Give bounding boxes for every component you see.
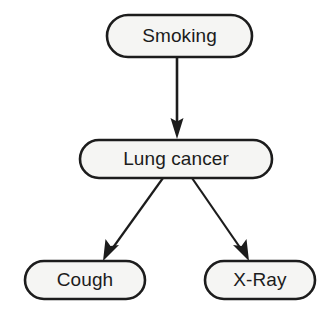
edge-line bbox=[192, 178, 241, 249]
diagram-canvas: Smoking Lung cancer Cough X-Ray bbox=[0, 0, 329, 323]
node-shape-cough[interactable] bbox=[25, 261, 145, 299]
edge-smoking-to-lung-cancer bbox=[171, 57, 184, 139]
node-shape-group bbox=[25, 15, 315, 299]
edge-line bbox=[112, 178, 163, 249]
graph-svg bbox=[0, 0, 329, 323]
node-shape-xray[interactable] bbox=[205, 261, 315, 299]
node-shape-smoking[interactable] bbox=[107, 15, 252, 57]
node-shape-lung-cancer[interactable] bbox=[80, 140, 272, 178]
edge-lung-cancer-to-xray bbox=[192, 178, 249, 261]
edge-lung-cancer-to-cough bbox=[103, 178, 163, 261]
